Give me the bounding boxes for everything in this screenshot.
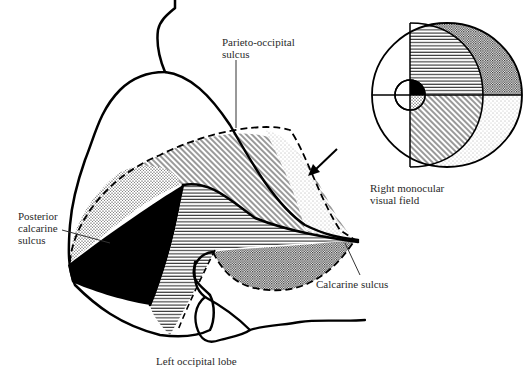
visual-field-diagram xyxy=(372,20,524,170)
label-calcarine-sulcus: Calcarine sulcus xyxy=(316,278,388,290)
occipital-lobe xyxy=(68,0,365,342)
label-left-occipital-lobe: Left occipital lobe xyxy=(156,355,237,367)
label-parieto-occipital-sulcus: Parieto-occipital sulcus xyxy=(222,36,295,60)
arrow-icon xyxy=(308,149,337,176)
label-right-monocular-visual-field: Right monocular visual field xyxy=(370,182,444,206)
label-posterior-calcarine-sulcus: Posterior calcarine sulcus xyxy=(18,210,58,246)
calcarine-pointer xyxy=(345,243,360,275)
